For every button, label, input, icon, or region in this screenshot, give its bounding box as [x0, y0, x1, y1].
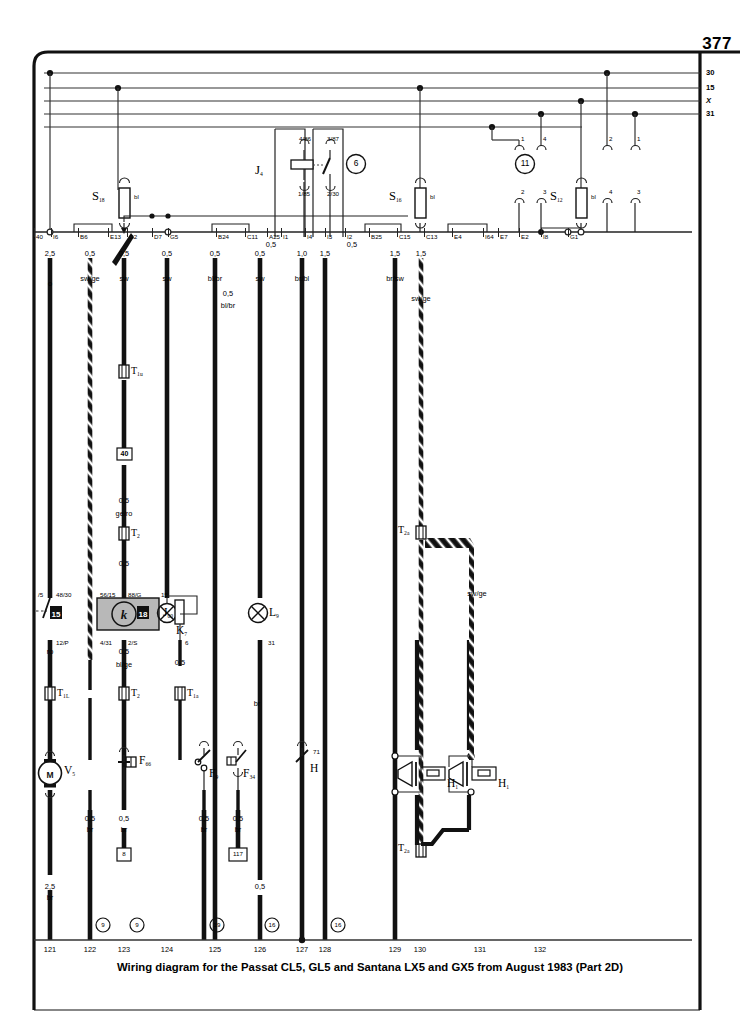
wire-size-5: 0,5: [255, 250, 265, 257]
component-pin-2: 12/P: [56, 640, 69, 646]
wire-color-bottom-0: br: [87, 826, 94, 833]
terminal-strip-label-8: C11: [247, 234, 258, 240]
sensor-h-label: H: [310, 763, 318, 775]
wire-color-bottom-5: br: [47, 894, 54, 901]
motor-v-label: V5: [64, 765, 75, 778]
horn-wires: [417, 640, 469, 845]
switch-f66-label: F66: [139, 755, 151, 768]
terminal-strip-tick-12: [325, 228, 326, 237]
wire-size-8: 1,5: [320, 250, 330, 257]
relay-j00-label: J00: [163, 607, 173, 620]
bus-lines: [44, 73, 700, 127]
bottom-number-129: 129: [389, 946, 401, 953]
wire-size-7: 1,0: [297, 250, 307, 257]
terminal-strip-label-1: I6: [53, 234, 58, 240]
terminal-strip-label-17: E4: [454, 234, 462, 240]
bottom-number-128: 128: [319, 946, 331, 953]
plug-pin-lower-1: 3: [543, 189, 546, 195]
bottom-number-130: 130: [414, 946, 426, 953]
track-ref-1: 9: [135, 922, 138, 928]
bottom-number-121: 121: [44, 946, 56, 953]
switch-f34-symbol: [227, 742, 246, 790]
relay-j4-label: J4: [255, 163, 263, 178]
bottom-number-125: 125: [209, 946, 221, 953]
terminal-strip-label-18: I64: [485, 234, 494, 240]
terminal-strip-tick-17: [452, 228, 453, 237]
fuse-s12-color: bl: [591, 194, 596, 200]
terminal-strip-tick-8: [245, 228, 246, 237]
bottom-number-124: 124: [161, 946, 173, 953]
terminal-strip-label-12: I3: [327, 234, 332, 240]
fuse-s18-color: bl: [134, 194, 139, 200]
bus-label-15: 15: [706, 84, 714, 92]
plug-pin-upper-1: 4: [543, 136, 546, 142]
plug-pin-upper-2: 2: [609, 136, 612, 142]
box-40-label: 40: [121, 450, 129, 457]
terminal-strip-tick-20: [519, 228, 520, 237]
wire-color-3: sw: [162, 275, 171, 282]
wire-size-3: 0,5: [162, 250, 172, 257]
track-ref-3: 16: [269, 922, 276, 928]
lamp-k7-label: K7: [176, 625, 187, 638]
terminal-strip-label-0: 40: [36, 234, 43, 240]
terminal-strip-tick-14: [369, 228, 370, 237]
connector-t2a-top-label: T2a: [398, 525, 409, 537]
wire-color-bottom-3: br: [235, 826, 242, 833]
component-pin-7: 15: [161, 592, 168, 598]
terminal-strip-tick-3: [108, 228, 109, 237]
horn-h-left-label: H1: [447, 778, 458, 791]
component-pin-3: 56/15: [100, 592, 115, 598]
wire-color-7: br/bl: [295, 275, 309, 282]
relay-j4-terminal-3-87: 3/87: [327, 136, 339, 142]
fuse-s18-symbol: [119, 178, 130, 234]
terminal-strip-label-3: E13: [110, 234, 121, 240]
terminal-strip-label-21: I8: [543, 234, 548, 240]
component-pin-5: 88/G: [128, 592, 141, 598]
lamp-l9-symbol: [249, 604, 268, 623]
terminal-strip-tick-13: [345, 228, 346, 237]
wire-color-bottom-1: br: [121, 826, 128, 833]
terminal-strip-label-10: I1: [283, 234, 288, 240]
fuse-s12-label: S12: [550, 190, 563, 204]
relay-j4-symbol: [275, 129, 343, 237]
terminal-strip-label-22: G1: [570, 234, 578, 240]
switch-f66-symbol: [118, 748, 136, 791]
track-ref-0: 9: [101, 922, 104, 928]
switch-f34-label: F34: [243, 768, 255, 781]
plug-pin-upper-0: 1: [521, 136, 524, 142]
terminal-strip-label-19: E7: [500, 234, 508, 240]
wire-size-6: 0,5: [223, 290, 233, 297]
component-pin-9: 31: [268, 640, 275, 646]
component-pin-0: /5: [38, 592, 43, 598]
plug-pin-lower-0: 2: [521, 189, 524, 195]
wire-size-17: 0,5: [175, 659, 185, 666]
bus-junctions: [47, 70, 638, 130]
bottom-number-127: 127: [296, 946, 308, 953]
relay-j4-terminal-1-85: 1/85: [298, 191, 310, 197]
terminal-strip-tick-21: [541, 228, 542, 237]
bus-label-30: 30: [706, 69, 714, 77]
relay-position-6-label: 6: [354, 159, 359, 167]
horn-left-symbol: [392, 753, 445, 795]
terminal-strip-label-15: C15: [399, 234, 410, 240]
terminal-strip-tick-0: [34, 228, 35, 237]
wire-size-bottom-3: 0,5: [233, 815, 243, 822]
relay-j00-symbol: k: [97, 598, 159, 630]
lamp-l9-label: L9: [269, 607, 279, 620]
terminal-strip-tick-4: [127, 228, 128, 237]
switch-f9-label: F9: [209, 768, 218, 781]
fuse-s16-color: bl: [430, 194, 435, 200]
terminal-strip-tick-15: [397, 228, 398, 237]
terminal-strip-label-16: C13: [426, 234, 437, 240]
fuse-s16-label: S16: [389, 190, 402, 204]
terminal-strip-tick-2: [78, 228, 79, 237]
bottom-number-122: 122: [84, 946, 96, 953]
wire-color-13: ge/ro: [116, 510, 133, 517]
component-pin-4: 4/31: [100, 640, 112, 646]
terminal-strip-label-7: B24: [218, 234, 229, 240]
plug-pin-lower-3: 3: [637, 189, 640, 195]
wire-size-2: 0,5: [119, 250, 129, 257]
terminal-strip-label-2: B6: [80, 234, 88, 240]
terminal-strip-label-4: G2: [129, 234, 137, 240]
plug-pin-upper-3: 1: [637, 136, 640, 142]
